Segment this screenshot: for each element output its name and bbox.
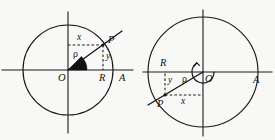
left-axis-end-label: A [119,73,125,84]
right-origin-label: O [205,74,213,85]
right-ordinate-label: y [168,76,172,86]
left-point-marker [102,44,105,47]
left-point-label: P [108,35,114,46]
right-point-marker [164,94,167,97]
right-axis-end-label: A [253,75,259,86]
figure-canvas [0,0,275,140]
right-abscissa-label: x [181,97,185,107]
left-radius-vector-label: ρ [73,49,78,59]
right-foot-label: R [160,58,166,69]
left-abscissa-label: x [77,33,81,43]
left-foot-label: R [99,73,105,84]
left-origin-label: O [58,73,66,84]
right-radius-vector-label: ρ [182,74,187,84]
figure-root: x ρ y P O R A R y ρ O x P A [0,0,275,140]
left-ordinate-label: y [106,52,110,62]
right-angle-arrowhead [194,63,199,66]
left-diagram [2,12,133,133]
right-point-label: P [157,99,163,110]
